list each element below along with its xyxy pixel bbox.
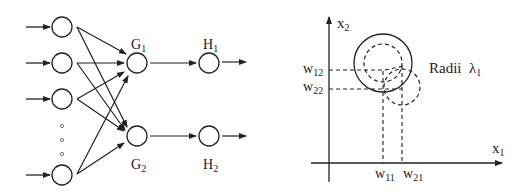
input-node-3 [52,89,72,109]
y-axis-label: x2 [337,16,350,33]
label-h2: H2 [203,158,218,174]
label-g1: G1 [131,38,146,54]
projection-lines [329,66,404,163]
dashed-circle-1 [364,44,402,82]
node-h1 [199,53,219,73]
input-nodes [52,17,72,185]
radii-annotation: Radii λ1 [429,61,481,78]
hidden-to-output-connections [150,63,196,136]
hidden-nodes [127,53,147,146]
input-node-n [52,165,72,185]
label-g2: G2 [131,158,146,174]
node-g2 [127,126,147,146]
output-nodes [199,53,219,146]
tick-w21: w21 [403,167,423,183]
tick-w11: w11 [375,167,395,183]
tick-w22: w22 [303,80,323,96]
input-arrows [26,27,50,175]
x-axis-label: x1 [492,141,505,158]
node-h2 [199,126,219,146]
label-h1: H1 [203,38,218,54]
receptive-field-solid-circle [354,34,412,92]
plot-axes [311,17,502,182]
input-node-2 [52,53,72,73]
diagram-canvas [0,0,526,194]
tick-w12: w12 [303,62,323,78]
input-node-1 [52,17,72,37]
ellipsis-dots [60,124,63,155]
node-g1 [127,53,147,73]
dashed-circles [364,44,420,105]
output-arrows [222,62,246,136]
input-to-hidden-connections [77,27,128,174]
